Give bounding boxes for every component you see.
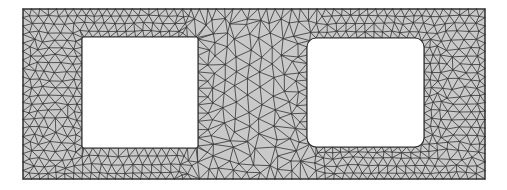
mesh-figure [0,0,507,190]
left-square-hole [82,37,198,148]
right-square-hole [307,38,424,147]
mesh-canvas [0,0,507,190]
